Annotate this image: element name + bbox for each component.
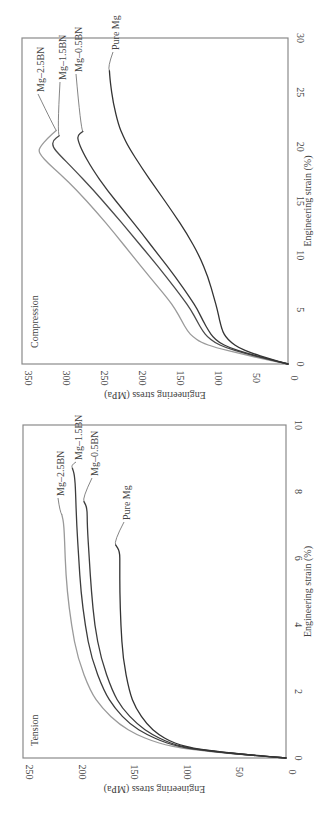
compression-leader-mg-0-5bn bbox=[76, 74, 83, 132]
compression-strain-tick-0: 0 bbox=[295, 362, 306, 367]
compression-curve-pure-mg bbox=[109, 71, 288, 364]
compression-strain-tick-10: 10 bbox=[295, 250, 306, 260]
tension-stress-tick-50: 50 bbox=[234, 767, 245, 777]
compression-stress-tick-300: 300 bbox=[61, 371, 72, 386]
tension-strain-tick-10: 10 bbox=[293, 420, 304, 430]
compression-label-pure-mg: Pure Mg bbox=[110, 15, 121, 50]
compression-y-axis-label: Engineering stress (MPa) bbox=[104, 389, 206, 401]
tension-stress-tick-150: 150 bbox=[129, 765, 140, 780]
tension-curve-mg-1-5bn bbox=[72, 468, 286, 758]
tension-y-axis-label: Engineering stress (MPa) bbox=[104, 783, 206, 795]
compression-stress-tick-50: 50 bbox=[251, 373, 262, 383]
tension-stress-tick-0: 0 bbox=[287, 770, 298, 775]
compression-strain-tick-5: 5 bbox=[295, 307, 306, 312]
compression-stress-tick-250: 250 bbox=[99, 371, 110, 386]
compression-strain-tick-20: 20 bbox=[295, 142, 306, 152]
compression-stress-tick-150: 150 bbox=[175, 371, 186, 386]
tension-label-mg-1-5bn: Mg–1.5BN bbox=[73, 415, 84, 460]
compression-label-mg-2-5bn: Mg–2.5BN bbox=[35, 47, 46, 92]
tension-curve-mg-2-5bn bbox=[62, 515, 286, 758]
tension-panel: 050100150200250 0246810 Tension Engineer… bbox=[23, 415, 314, 795]
tension-panel-title: Tension bbox=[29, 714, 40, 746]
tension-strain-tick-2: 2 bbox=[293, 689, 304, 694]
compression-stress-tick-200: 200 bbox=[137, 371, 148, 386]
tension-label-mg-0-5bn: Mg–0.5BN bbox=[89, 431, 100, 476]
compression-strain-tick-25: 25 bbox=[295, 87, 306, 97]
compression-curves bbox=[39, 71, 288, 364]
tension-label-mg-2-5bn: Mg–2.5BN bbox=[55, 451, 66, 496]
compression-curve-mg-0-5bn bbox=[78, 132, 288, 365]
compression-panel-title: Compression bbox=[29, 295, 40, 348]
tension-strain-tick-8: 8 bbox=[293, 489, 304, 494]
tension-stress-tick-250: 250 bbox=[24, 765, 35, 780]
compression-leader-pure-mg bbox=[109, 52, 113, 71]
tension-curves bbox=[62, 468, 286, 758]
compression-leader-mg-2-5bn bbox=[38, 94, 56, 130]
tension-stress-tick-100: 100 bbox=[182, 765, 193, 780]
tension-leader-mg-0-5bn bbox=[84, 478, 92, 502]
compression-strain-tick-30: 30 bbox=[295, 33, 306, 43]
tension-leader-pure-mg bbox=[115, 522, 124, 545]
compression-leader-mg-1-5bn bbox=[58, 82, 60, 136]
compression-curve-mg-1-5bn bbox=[53, 136, 288, 364]
tension-x-axis-label: Engineering strain (%) bbox=[302, 546, 314, 637]
tension-stress-ticks: 050100150200250 bbox=[24, 765, 298, 780]
compression-stress-tick-350: 350 bbox=[23, 371, 34, 386]
compression-stress-tick-100: 100 bbox=[213, 371, 224, 386]
tension-leader-mg-1-5bn bbox=[72, 462, 76, 468]
compression-curve-mg-2-5bn bbox=[39, 130, 288, 364]
tension-leader-mg-2-5bn bbox=[58, 498, 62, 515]
compression-label-mg-1-5bn: Mg–1.5BN bbox=[57, 35, 68, 80]
tension-label-pure-mg: Pure Mg bbox=[121, 485, 132, 520]
compression-plot-frame bbox=[22, 38, 288, 364]
compression-panel: 050100150200250300350 051015202530 Compr… bbox=[22, 15, 314, 401]
compression-x-axis-label: Engineering strain (%) bbox=[302, 155, 314, 246]
stress-strain-figure: 050100150200250300350 051015202530 Compr… bbox=[0, 0, 330, 822]
compression-stress-ticks: 050100150200250300350 bbox=[23, 371, 300, 386]
compression-label-mg-0-5bn: Mg–0.5BN bbox=[73, 27, 84, 72]
tension-curve-pure-mg bbox=[116, 545, 286, 758]
tension-strain-tick-0: 0 bbox=[293, 756, 304, 761]
compression-stress-tick-0: 0 bbox=[289, 376, 300, 381]
tension-stress-tick-200: 200 bbox=[77, 765, 88, 780]
